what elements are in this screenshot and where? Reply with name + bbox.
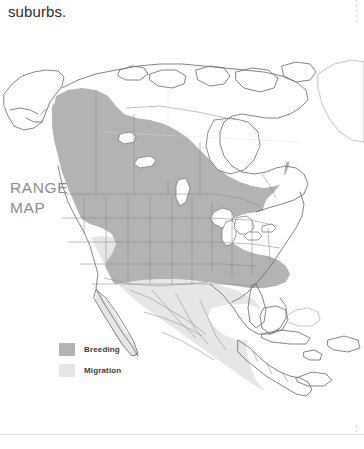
migration-swatch [59, 364, 75, 377]
range-map-caption-line-2: MAP [10, 198, 68, 218]
map-legend: Breeding Migration [59, 341, 121, 383]
legend-label-migration: Migration [84, 366, 121, 375]
legend-item-migration: Migration [59, 362, 121, 379]
page-body-text: suburbs. [8, 2, 66, 22]
lake-erie [244, 232, 262, 240]
range-map-caption-line-1: RANGE [10, 178, 68, 198]
legend-item-breeding: Breeding [59, 341, 121, 358]
breeding-swatch [59, 343, 75, 356]
legend-label-breeding: Breeding [84, 345, 120, 354]
range-map-figure [0, 22, 364, 422]
north-america-range-map [0, 22, 364, 422]
range-map-caption: RANGE MAP [10, 178, 68, 218]
page-bottom-rule [0, 434, 364, 435]
